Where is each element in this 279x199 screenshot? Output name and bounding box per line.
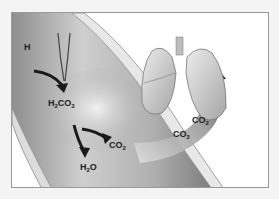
right-lung	[186, 49, 226, 120]
trachea	[176, 37, 183, 55]
label-h: H	[24, 42, 31, 52]
lungs-illustration	[142, 37, 226, 120]
diagram-frame: H H2CO3 CO2 H2O CO2 CO2	[11, 12, 269, 188]
diagram-canvas: H H2CO3 CO2 H2O CO2 CO2	[12, 13, 269, 188]
label-h2co3: H2CO3	[48, 98, 75, 109]
left-lung	[142, 48, 176, 114]
